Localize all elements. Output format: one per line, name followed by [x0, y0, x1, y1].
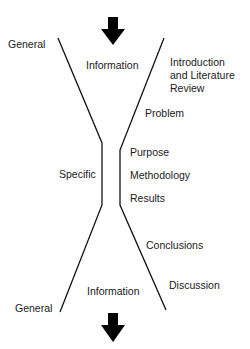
section-introduction-line1: Introduction	[170, 56, 235, 69]
label-general-bottom: General	[15, 302, 52, 315]
section-results: Results	[130, 192, 165, 205]
label-information-bottom: Information	[87, 285, 140, 298]
label-specific: Specific	[59, 168, 96, 181]
top-down-arrow-icon	[101, 17, 125, 45]
label-information-top: Information	[86, 59, 139, 72]
section-problem: Problem	[145, 107, 184, 120]
section-introduction: Introduction and Literature Review	[170, 56, 235, 95]
section-conclusions: Conclusions	[146, 239, 203, 252]
label-general-top: General	[8, 38, 45, 51]
section-discussion: Discussion	[169, 279, 220, 292]
section-methodology: Methodology	[130, 169, 190, 182]
section-introduction-line2: and Literature	[170, 69, 235, 82]
section-purpose: Purpose	[130, 146, 169, 159]
section-introduction-line3: Review	[170, 82, 235, 95]
bottom-down-arrow-icon	[101, 313, 125, 342]
